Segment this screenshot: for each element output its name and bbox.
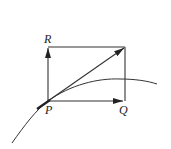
label-p: P — [44, 103, 53, 117]
vector-diagram: R P Q — [0, 0, 171, 149]
label-q: Q — [119, 103, 128, 117]
trajectory-curve — [12, 79, 157, 143]
label-r: R — [43, 32, 52, 46]
resultant-vector-arrow — [48, 48, 124, 101]
